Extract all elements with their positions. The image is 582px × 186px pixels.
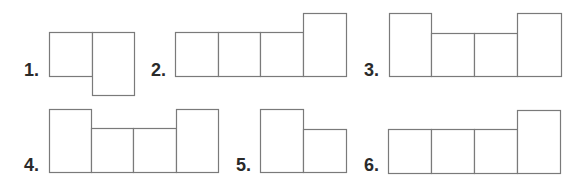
net-face <box>177 110 219 173</box>
net-face <box>50 33 93 77</box>
net-face <box>219 33 261 77</box>
net-face <box>92 129 134 173</box>
net-face <box>50 110 92 173</box>
net-figure-5[interactable] <box>261 110 347 173</box>
net-face <box>261 33 304 77</box>
net-figure-1[interactable] <box>50 33 135 96</box>
net-face <box>432 130 475 174</box>
net-face <box>432 34 475 77</box>
net-face <box>134 129 177 173</box>
net-face <box>518 14 562 77</box>
net-face <box>261 110 304 173</box>
net-face <box>475 130 518 174</box>
net-figure-4[interactable] <box>50 110 219 173</box>
net-face <box>475 34 518 77</box>
net-face <box>93 33 135 96</box>
net-figure-3[interactable] <box>390 14 562 77</box>
net-face <box>390 14 432 77</box>
net-figure-2[interactable] <box>176 14 347 77</box>
net-face <box>389 130 432 174</box>
net-face <box>304 130 347 173</box>
nets-canvas <box>0 0 582 186</box>
net-face <box>518 111 561 174</box>
net-face <box>176 33 219 77</box>
net-figure-6[interactable] <box>389 111 561 174</box>
net-face <box>304 14 347 77</box>
